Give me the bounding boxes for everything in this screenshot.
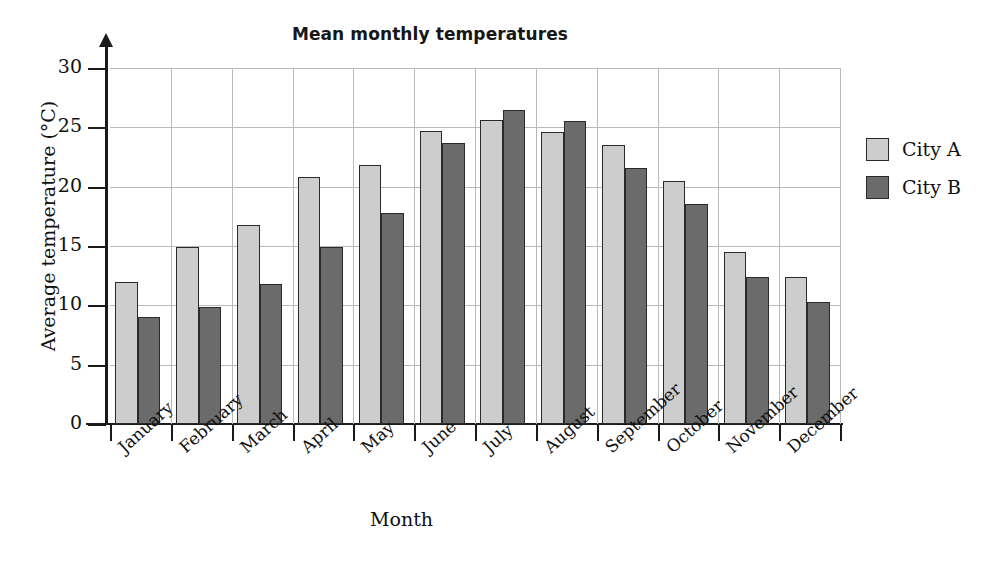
x-axis-title: Month (370, 508, 433, 530)
plot-area (110, 68, 840, 424)
x-tick-mark (232, 424, 234, 441)
gridline-vertical (658, 68, 659, 424)
bar-city-b-august (564, 121, 587, 424)
gridline-vertical (779, 68, 780, 424)
gridline-vertical (475, 68, 476, 424)
bar-city-a-september (602, 145, 625, 424)
bar-city-a-january (115, 282, 138, 424)
gridline-vertical (536, 68, 537, 424)
x-tick-label-july: July (479, 420, 517, 457)
gridline-vertical (293, 68, 294, 424)
y-tick-mark (88, 127, 106, 129)
y-tick-label: 0 (38, 411, 82, 433)
x-tick-mark (718, 424, 720, 441)
light-gray-swatch-icon (866, 138, 889, 161)
x-tick-mark (536, 424, 538, 441)
y-axis-title: Average temperature (°C) (37, 86, 59, 366)
chart-title: Mean monthly temperatures (0, 24, 860, 44)
bar-city-a-august (541, 132, 564, 424)
bar-city-a-april (298, 177, 321, 424)
x-tick-mark (110, 424, 112, 441)
bar-city-b-october (685, 204, 708, 424)
bar-city-a-may (359, 165, 382, 424)
y-tick-mark (88, 187, 106, 189)
x-tick-mark (597, 424, 599, 441)
x-tick-mark (779, 424, 781, 441)
chart-legend: City A City B (866, 130, 961, 206)
legend-item-city-b[interactable]: City B (866, 168, 961, 206)
legend-label-city-a: City A (902, 138, 961, 160)
gridline-vertical (353, 68, 354, 424)
gridline-vertical (414, 68, 415, 424)
chart-figure: Mean monthly temperatures 051015202530 J… (0, 0, 982, 565)
x-tick-mark (658, 424, 660, 441)
y-tick-mark (88, 246, 106, 248)
bar-city-b-june (442, 143, 465, 424)
y-axis-line (105, 44, 108, 425)
bar-city-b-march (260, 284, 283, 424)
dark-gray-swatch-icon (866, 176, 889, 199)
x-tick-mark (840, 424, 842, 441)
x-tick-mark (475, 424, 477, 441)
x-tick-mark (293, 424, 295, 441)
y-tick-mark (88, 424, 106, 426)
y-tick-mark (88, 365, 106, 367)
y-tick-label: 30 (38, 55, 82, 77)
y-tick-mark (88, 68, 106, 70)
gridline-vertical (840, 68, 841, 424)
legend-label-city-b: City B (902, 176, 961, 198)
gridline-vertical (597, 68, 598, 424)
x-tick-mark (353, 424, 355, 441)
bar-city-a-march (237, 225, 260, 424)
bar-city-a-july (480, 120, 503, 424)
gridline-vertical (171, 68, 172, 424)
y-tick-mark (88, 305, 106, 307)
bar-city-b-april (320, 247, 343, 424)
x-tick-mark (171, 424, 173, 441)
gridline-vertical (718, 68, 719, 424)
legend-item-city-a[interactable]: City A (866, 130, 961, 168)
x-tick-mark (414, 424, 416, 441)
gridline-vertical (232, 68, 233, 424)
bar-city-b-may (381, 213, 404, 424)
bar-city-a-february (176, 247, 199, 424)
bar-city-b-july (503, 110, 526, 424)
bar-city-a-november (724, 252, 747, 424)
bar-city-a-june (420, 131, 443, 424)
bar-city-b-september (625, 168, 648, 424)
